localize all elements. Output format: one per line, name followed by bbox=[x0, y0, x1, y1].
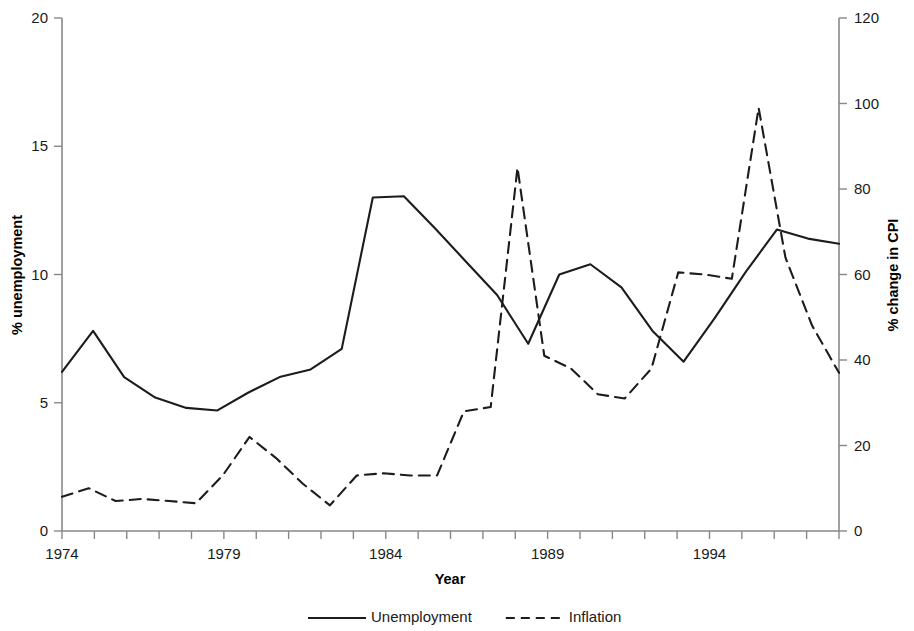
plot-area: 19741979198419891994 05101520 0204060801… bbox=[31, 9, 879, 562]
y-axis-left: 05101520 bbox=[31, 9, 62, 539]
y-axis-right-tick-label: 100 bbox=[854, 95, 879, 112]
x-axis-tick-label: 1979 bbox=[207, 545, 240, 562]
y-axis-left-tick-label: 0 bbox=[40, 522, 48, 539]
chart-legend: UnemploymentInflation bbox=[308, 608, 621, 625]
y-axis-right-tick-label: 120 bbox=[854, 9, 879, 26]
y-axis-right: 020406080100120 bbox=[839, 9, 879, 539]
y-axis-right-title: % change in CPI bbox=[885, 219, 901, 332]
y-axis-left-tick-label: 15 bbox=[31, 137, 48, 154]
y-axis-right-tick-label: 0 bbox=[854, 522, 862, 539]
chart-svg: 19741979198419891994 05101520 0204060801… bbox=[0, 0, 914, 631]
y-axis-right-tick-label: 40 bbox=[854, 351, 871, 368]
y-axis-left-title: % unemployment bbox=[9, 215, 25, 335]
y-axis-right-tick-label: 80 bbox=[854, 180, 871, 197]
x-axis: 19741979198419891994 bbox=[45, 531, 839, 562]
y-axis-left-tick-label: 10 bbox=[31, 266, 48, 283]
y-axis-left-tick-label: 5 bbox=[40, 394, 48, 411]
y-axis-right-tick-label: 60 bbox=[854, 266, 871, 283]
y-axis-left-tick-label: 20 bbox=[31, 9, 48, 26]
series-layer bbox=[62, 108, 839, 506]
x-axis-tick-label: 1994 bbox=[693, 545, 726, 562]
series-line-unemployment bbox=[62, 196, 839, 410]
x-axis-tick-label: 1974 bbox=[45, 545, 78, 562]
legend-label-unemployment: Unemployment bbox=[371, 608, 473, 625]
x-axis-title: Year bbox=[435, 571, 466, 587]
y-axis-right-tick-label: 20 bbox=[854, 437, 871, 454]
x-axis-tick-label: 1989 bbox=[531, 545, 564, 562]
x-axis-tick-label: 1984 bbox=[369, 545, 402, 562]
legend-label-inflation: Inflation bbox=[569, 608, 622, 625]
chart-figure: 19741979198419891994 05101520 0204060801… bbox=[0, 0, 914, 631]
